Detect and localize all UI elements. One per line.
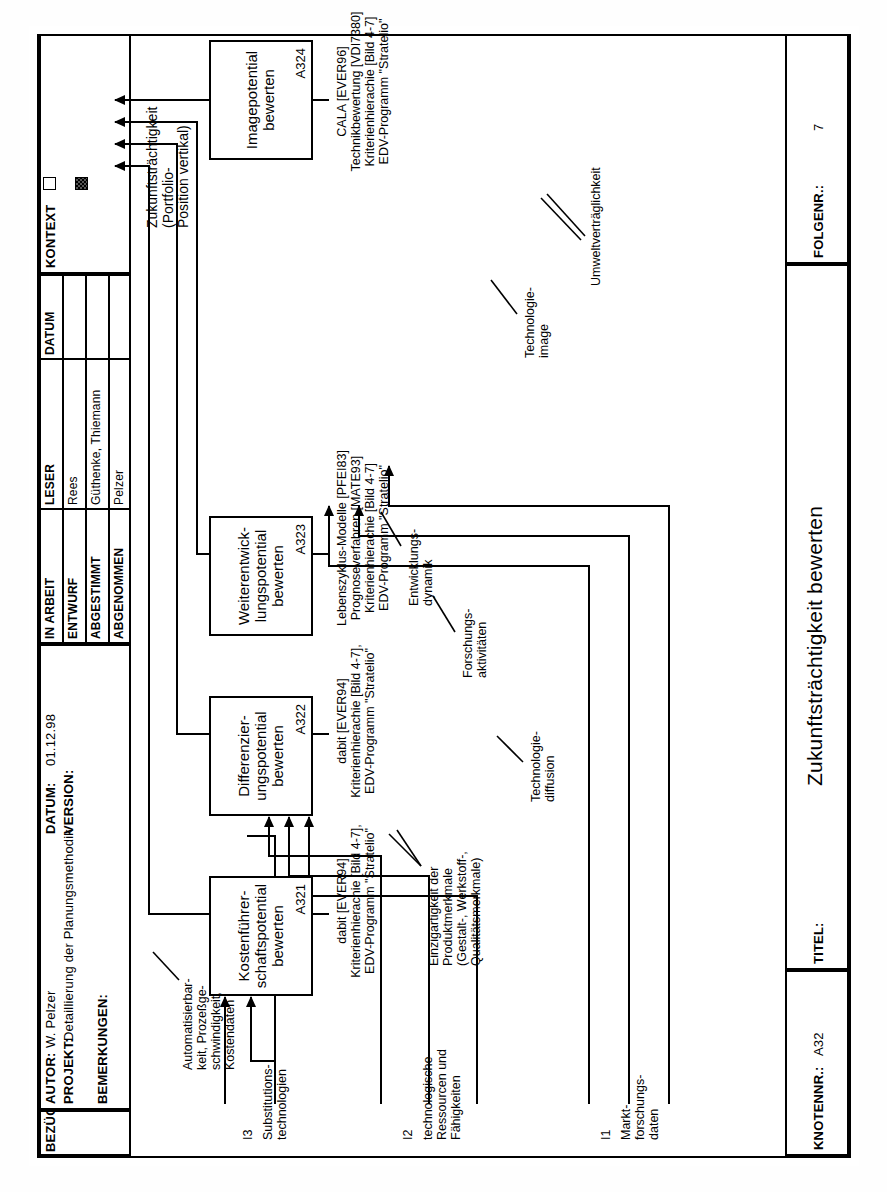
idef0-sheet: BEZÜGE IN: AUTOR: W. Pelzer PROJEKT: Det… xyxy=(29,26,859,1166)
diagram-page: BEZÜGE IN: AUTOR: W. Pelzer PROJEKT: Det… xyxy=(0,0,887,1192)
leader-lines xyxy=(29,26,859,1166)
